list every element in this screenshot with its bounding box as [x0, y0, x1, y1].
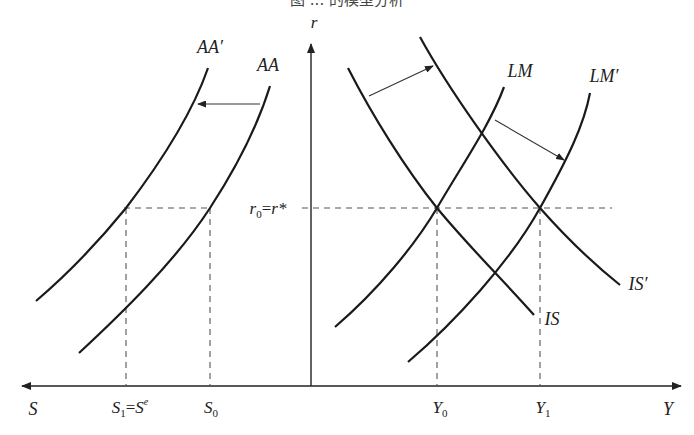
axis-label-s: S [29, 399, 38, 419]
is-shift-arrow [369, 66, 433, 96]
is-curve [348, 68, 534, 315]
label-is: IS [544, 309, 560, 329]
label-aa-prime: AA′ [196, 37, 224, 57]
label-is-prime: IS′ [628, 274, 649, 294]
tick-label-s0: S0 [204, 398, 219, 419]
axis-label-r: r [311, 13, 318, 32]
figure-title-cropped: 图 ... 的模型分析 [290, 0, 404, 9]
axis-label-y: Y [663, 399, 675, 419]
lm-shift-arrow [495, 120, 564, 160]
label-aa: AA [256, 55, 280, 75]
tick-label-s1: S1=Se [112, 396, 149, 419]
label-lm: LM [506, 61, 533, 81]
aa-islm-diagram: 图 ... 的模型分析 r S Y AA′ AA LM LM′ IS IS′ r… [0, 0, 694, 435]
tick-label-y0: Y0 [433, 398, 448, 419]
tick-label-y1: Y1 [536, 398, 551, 419]
aa-prime-curve [36, 68, 208, 301]
lm-prime-curve [408, 93, 590, 362]
aa-curve [79, 86, 270, 353]
label-rate-level: r0=r* [250, 199, 287, 220]
label-lm-prime: LM′ [589, 66, 620, 86]
